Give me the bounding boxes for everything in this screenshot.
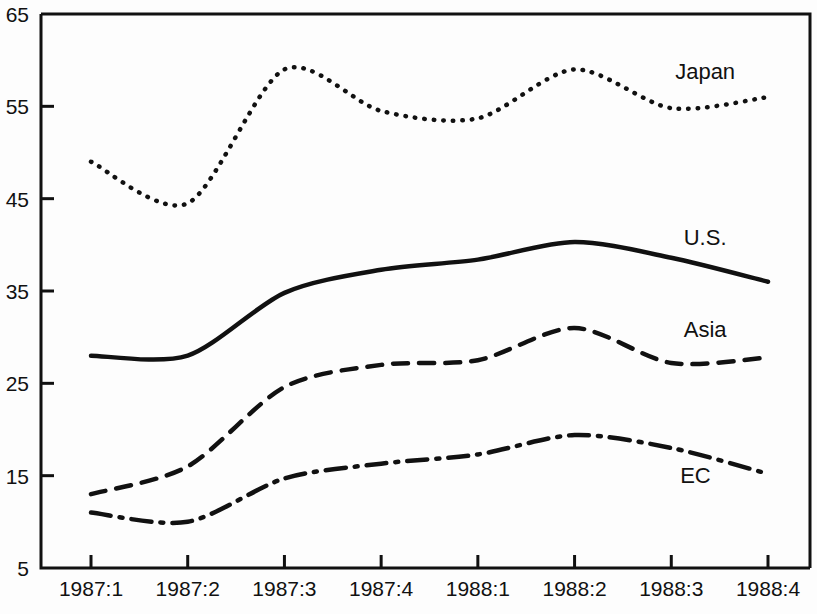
series-label-japan: Japan	[675, 59, 735, 84]
x-tick-label: 1988:1	[446, 577, 510, 600]
series-line-ec	[91, 435, 768, 523]
chart-canvas: 6555453525155 1987:11987:21987:31987:419…	[0, 0, 817, 614]
x-tick-label: 1987:3	[252, 577, 316, 600]
x-tick-label: 1987:4	[349, 577, 414, 600]
series-label-u-s: U.S.	[684, 225, 727, 250]
x-axis-ticks	[91, 555, 768, 568]
x-tick-label: 1988:2	[542, 577, 606, 600]
x-tick-label: 1987:1	[59, 577, 123, 600]
y-tick-label: 25	[6, 372, 29, 395]
y-tick-label: 35	[6, 280, 29, 303]
series-line-japan	[91, 67, 768, 205]
x-axis-tick-labels: 1987:11987:21987:31987:41988:11988:21988…	[59, 577, 801, 600]
x-tick-label: 1988:4	[736, 577, 801, 600]
series-line-u-s	[91, 242, 768, 360]
y-tick-label: 5	[17, 557, 29, 580]
y-tick-label: 45	[6, 188, 29, 211]
series-label-asia: Asia	[684, 317, 728, 342]
y-axis-ticks	[41, 106, 54, 475]
x-tick-label: 1988:3	[639, 577, 703, 600]
y-tick-label: 55	[6, 95, 29, 118]
series-label-ec: EC	[680, 463, 711, 488]
y-tick-label: 65	[6, 3, 29, 26]
line-chart-figure: 6555453525155 1987:11987:21987:31987:419…	[0, 0, 817, 614]
series-labels: JapanU.S.AsiaEC	[675, 59, 735, 488]
series-layer	[91, 67, 768, 523]
x-tick-label: 1987:2	[156, 577, 220, 600]
y-axis-tick-labels: 6555453525155	[6, 3, 29, 580]
y-tick-label: 15	[6, 465, 29, 488]
